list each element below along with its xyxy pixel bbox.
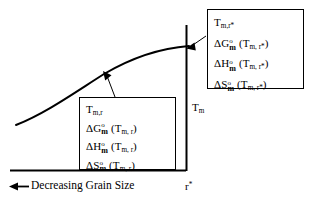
- figure-canvas: Tm,r* ΔGom (Tm, r*) ΔHom (Tm, r*) ΔSom (…: [0, 0, 311, 205]
- callout-upper-line-4: ΔSom (Tm, r*): [214, 76, 298, 97]
- argument-close: ): [133, 140, 137, 152]
- argument-open: (T: [109, 159, 120, 171]
- subscript-mr: m,r: [93, 109, 103, 117]
- argument-subscript: m, r*: [250, 42, 265, 50]
- symbol-H: H: [221, 57, 229, 69]
- degree-and-m-stack: om: [229, 56, 236, 67]
- tm-axis-label: Tm: [192, 101, 204, 115]
- argument-open: (T: [237, 78, 248, 90]
- argument-subscript: m, r*: [248, 83, 263, 91]
- degree-and-m-stack: om: [227, 77, 234, 88]
- argument-close: ): [133, 122, 137, 134]
- callout-upper: Tm,r* ΔGom (Tm, r*) ΔHom (Tm, r*) ΔSom (…: [207, 9, 304, 89]
- x-axis-caption-text: Decreasing Grain Size: [31, 179, 134, 191]
- argument-subscript: m, r: [122, 127, 134, 135]
- decreasing-arrow-head: [9, 183, 18, 191]
- subscript-m: m: [227, 80, 234, 97]
- callout-lower-line-1: Tm,r: [86, 102, 170, 121]
- argument-close: ): [131, 159, 135, 171]
- argument-subscript: m, r: [120, 164, 132, 172]
- argument-open: (T: [239, 57, 250, 69]
- callout-upper-line-3: ΔHom (Tm, r*): [214, 55, 298, 76]
- symbol-T: T: [214, 16, 221, 28]
- subscript-mr-star: m,r*: [221, 22, 234, 30]
- tm-label-subscript: m: [199, 107, 205, 115]
- argument-subscript: m, r*: [250, 63, 265, 71]
- argument-open: (T: [239, 37, 250, 49]
- symbol-G: G: [93, 122, 101, 134]
- symbol-G: G: [221, 37, 229, 49]
- tm-label-letter: T: [192, 101, 199, 113]
- degree-and-m-stack: om: [101, 121, 108, 132]
- degree-and-m-stack: om: [229, 36, 236, 47]
- symbol-T: T: [86, 103, 93, 115]
- callout-lower-line-2: ΔGom (Tm, r): [86, 121, 170, 140]
- callout-lower-line-4: ΔSom (Tm, r): [86, 158, 170, 177]
- callout-upper-line-2: ΔGom (Tm, r*): [214, 35, 298, 56]
- r-star-asterisk: *: [189, 181, 193, 189]
- x-axis-caption: Decreasing Grain Size: [31, 179, 134, 191]
- symbol-H: H: [93, 140, 101, 152]
- argument-open: (T: [111, 140, 122, 152]
- callout-upper-line-1: Tm,r*: [214, 14, 298, 35]
- argument-subscript: m, r: [122, 146, 134, 154]
- argument-close: ): [265, 57, 269, 69]
- argument-close: ): [263, 78, 267, 90]
- argument-close: ): [265, 37, 269, 49]
- subscript-m: m: [99, 161, 106, 176]
- callout-lower: Tm,r ΔGom (Tm, r) ΔHom (Tm, r) ΔSom (Tm,…: [79, 97, 176, 170]
- lower-callout-leader: [107, 76, 115, 97]
- argument-open: (T: [111, 122, 122, 134]
- degree-and-m-stack: om: [101, 139, 108, 150]
- degree-and-m-stack: om: [99, 158, 106, 169]
- r-star-tick-label: r*: [185, 180, 192, 192]
